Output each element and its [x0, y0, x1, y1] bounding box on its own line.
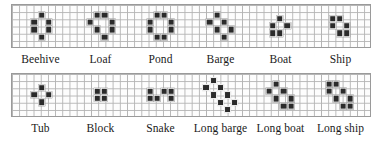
dead-cell: [333, 88, 340, 95]
live-cell: [347, 95, 354, 102]
live-cell: [146, 95, 153, 102]
pattern-row: [206, 33, 235, 40]
dead-cell: [108, 12, 115, 19]
pattern-pond: [146, 12, 175, 41]
pattern-slot-boat: [250, 4, 310, 48]
dead-cell: [45, 99, 52, 106]
pattern-ship: [329, 15, 351, 37]
pattern-boat: [269, 15, 291, 37]
live-cell: [38, 12, 45, 19]
pattern-row: [94, 95, 108, 102]
live-cell: [269, 22, 276, 29]
pattern-row: [202, 84, 238, 91]
label-row-bottom: Tub Block Snake Long barge Long boat Lon…: [11, 117, 371, 136]
pattern-row: [31, 19, 53, 26]
pattern-band-bottom: Tub Block Snake Long barge Long boat Lon…: [11, 67, 371, 136]
dead-cell: [228, 33, 235, 40]
dead-cell: [273, 102, 280, 109]
label-boat: Boat: [251, 51, 311, 67]
live-cell: [280, 88, 287, 95]
pattern-slot-long-boat: [250, 73, 310, 117]
live-cell: [347, 102, 354, 109]
dead-cell: [31, 33, 38, 40]
still-life-figure: Beehive Loaf Pond Barge Boat Ship: [0, 0, 381, 148]
live-cell: [87, 19, 94, 26]
pattern-row: [269, 15, 291, 22]
live-cell: [101, 95, 108, 102]
dead-cell: [217, 106, 224, 113]
live-cell: [273, 95, 280, 102]
pattern-row: [269, 22, 291, 29]
pattern-row: [266, 95, 295, 102]
pattern-row: [87, 19, 116, 26]
pattern-row: [146, 12, 175, 19]
dead-cell: [273, 88, 280, 95]
dead-cell: [94, 33, 101, 40]
pattern-row: [329, 15, 351, 22]
dead-cell: [210, 99, 217, 106]
label-tub: Tub: [11, 120, 71, 136]
dead-cell: [287, 88, 294, 95]
live-cell: [168, 95, 175, 102]
live-cell: [108, 19, 115, 26]
live-cell: [224, 91, 231, 98]
dead-cell: [266, 81, 273, 88]
live-cell: [269, 30, 276, 37]
pattern-row: [87, 33, 116, 40]
label-snake: Snake: [131, 120, 191, 136]
pattern-slot-snake: [131, 73, 191, 117]
live-cell: [329, 22, 336, 29]
label-block: Block: [71, 120, 131, 136]
dead-cell: [287, 81, 294, 88]
live-cell: [45, 91, 52, 98]
live-cell: [161, 12, 168, 19]
dead-cell: [31, 99, 38, 106]
dead-cell: [284, 15, 291, 22]
dead-cell: [231, 84, 238, 91]
live-cell: [266, 88, 273, 95]
dead-cell: [280, 81, 287, 88]
pattern-row: [325, 95, 354, 102]
pattern-tub: [31, 84, 53, 106]
live-cell: [153, 12, 160, 19]
label-row-top: Beehive Loaf Pond Barge Boat Ship: [11, 48, 371, 67]
dead-cell: [217, 91, 224, 98]
live-cell: [336, 30, 343, 37]
label-long-boat: Long boat: [251, 120, 311, 136]
dead-cell: [340, 95, 347, 102]
live-cell: [343, 22, 350, 29]
dead-cell: [87, 12, 94, 19]
live-cell: [325, 88, 332, 95]
pattern-row: [146, 95, 175, 102]
live-cell: [153, 33, 160, 40]
pattern-row: [202, 91, 238, 98]
dead-cell: [231, 91, 238, 98]
dead-cell: [146, 33, 153, 40]
live-cell: [210, 77, 217, 84]
live-cell: [101, 12, 108, 19]
dead-cell: [220, 26, 227, 33]
dead-cell: [217, 77, 224, 84]
dead-cell: [224, 99, 231, 106]
live-cell: [284, 22, 291, 29]
dead-cell: [228, 12, 235, 19]
live-cell: [217, 84, 224, 91]
live-cell: [38, 33, 45, 40]
live-cell: [343, 30, 350, 37]
dead-cell: [153, 88, 160, 95]
dead-cell: [206, 26, 213, 33]
pattern-row: [31, 91, 53, 98]
live-cell: [273, 81, 280, 88]
label-barge: Barge: [191, 51, 251, 67]
dead-cell: [213, 33, 220, 40]
pattern-row: [325, 81, 354, 88]
live-cell: [168, 19, 175, 26]
pattern-band-top: Beehive Loaf Pond Barge Boat Ship: [11, 0, 371, 67]
dead-cell: [108, 33, 115, 40]
dead-cell: [325, 95, 332, 102]
dead-cell: [210, 106, 217, 113]
live-cell: [224, 106, 231, 113]
live-cell: [213, 12, 220, 19]
live-cell: [146, 26, 153, 33]
pattern-row: [146, 19, 175, 26]
